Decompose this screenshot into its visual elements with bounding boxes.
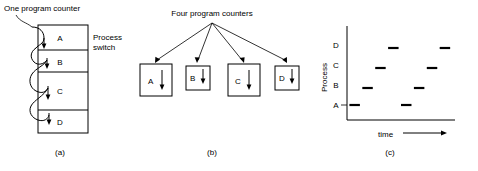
panel-b: Four program counters A [130, 0, 320, 171]
title-leader-line [16, 15, 32, 27]
process-label-c: C [57, 87, 63, 96]
y-tick-label-b: B [333, 81, 338, 90]
y-tick-label-a: A [333, 101, 339, 110]
process-label-b: B [57, 58, 62, 67]
process-label-a: A [57, 34, 63, 43]
panel-c: Process D C B A time (c) [315, 0, 478, 171]
panel-c-chart: Process D C B A time [315, 0, 478, 150]
y-tick-label-c: C [333, 61, 339, 70]
fan-out-arrowheads [155, 57, 287, 63]
counter-box-c: C [228, 64, 260, 96]
caption-b: (b) [192, 148, 232, 157]
run-segments-group [349, 48, 450, 105]
counter-box-b: B [186, 66, 210, 90]
y-axis-label: Process [320, 63, 329, 92]
fan-out-lines [157, 23, 285, 60]
panel-b-title: Four program counters [171, 9, 252, 18]
panel-a: One program counter A B C D [0, 0, 140, 171]
counter-label-b: B [190, 74, 195, 83]
y-tick-label-d: D [333, 41, 339, 50]
caption-a: (a) [40, 148, 80, 157]
caption-c: (c) [370, 148, 410, 157]
process-label-d: D [57, 118, 63, 127]
counter-box-a: A [140, 64, 172, 96]
figure-container: One program counter A B C D [0, 0, 478, 171]
program-counter-path [30, 27, 49, 121]
program-counter-arrowheads [42, 38, 52, 125]
process-switch-label-line1: Process [93, 33, 122, 42]
process-switch-label-line2: switch [93, 43, 115, 52]
panel-a-diagram: One program counter A B C D [0, 0, 140, 150]
x-axis-arrow-head [441, 130, 447, 135]
process-stack-box [38, 25, 88, 133]
counter-label-a: A [148, 77, 154, 86]
x-axis-label: time [378, 130, 394, 139]
counter-label-d: D [279, 74, 285, 83]
counter-label-c: C [235, 77, 241, 86]
panel-a-title: One program counter [4, 4, 80, 13]
counter-box-d: D [275, 66, 299, 90]
panel-b-diagram: Four program counters A [130, 0, 320, 150]
